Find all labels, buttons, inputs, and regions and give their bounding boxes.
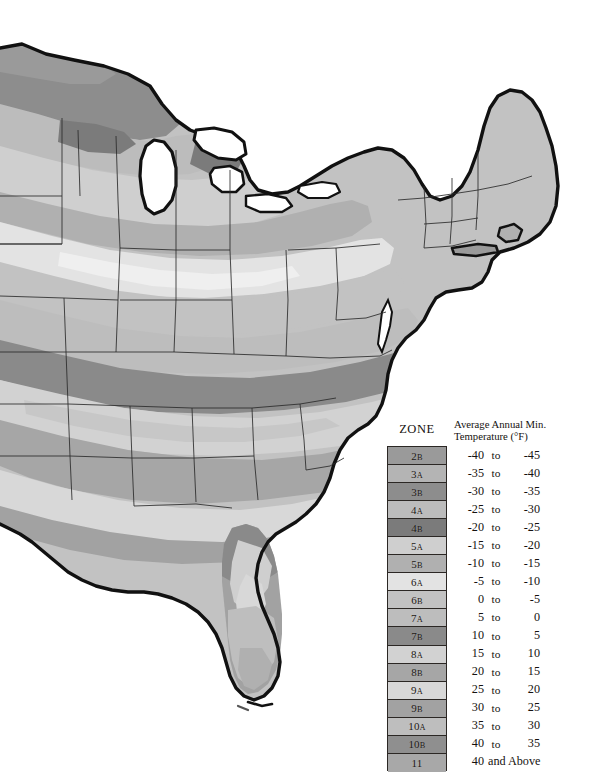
legend-temperature-row: 10to5: [454, 627, 594, 645]
legend-temp-qualifier: and Above: [484, 754, 540, 769]
legend-swatch-row: 11: [388, 754, 446, 772]
legend-temperature-row: -5to-10: [454, 572, 594, 590]
legend-temp-separator: to: [484, 521, 508, 533]
legend-temp-separator: to: [484, 539, 508, 551]
legend-temperature-row: -25to-30: [454, 500, 594, 518]
legend-temperature-row: 0to-5: [454, 590, 594, 608]
legend-swatch-row: 8B: [388, 664, 446, 682]
legend-temp-separator: to: [484, 720, 508, 732]
legend-swatch-row: 5A: [388, 537, 446, 555]
legend-zone-label: 5A: [411, 540, 423, 552]
legend-temp-low: 5: [454, 610, 484, 625]
legend-zone-label: 10A: [408, 720, 426, 732]
legend-zone-label: 3B: [411, 486, 422, 498]
legend-color-swatch: 8A: [388, 646, 446, 664]
legend-temperature-row: -20to-25: [454, 518, 594, 536]
legend-temp-low: 40: [454, 736, 484, 751]
legend-temp-separator: to: [484, 557, 508, 569]
legend-temp-low: 15: [454, 646, 484, 661]
legend-zone-label: 6A: [411, 576, 423, 588]
legend-temp-high: 30: [508, 718, 540, 733]
legend-zone-label: 9A: [411, 684, 423, 696]
legend-temp-high: 35: [508, 736, 540, 751]
legend-temperature-row: 30to25: [454, 699, 594, 717]
legend-color-swatch: 3B: [388, 483, 446, 501]
legend-temp-low: -25: [454, 502, 484, 517]
legend-temp-high: -10: [508, 574, 540, 589]
legend-temperature-header: Average Annual Min. Temperature (°F): [454, 419, 589, 442]
legend-temp-high: 15: [508, 664, 540, 679]
legend-temp-low: 30: [454, 700, 484, 715]
legend-color-swatch: 7B: [388, 627, 446, 645]
legend-swatch-row: 8A: [388, 646, 446, 664]
legend-swatch-row: 4B: [388, 519, 446, 537]
legend-color-swatch: 7A: [388, 609, 446, 627]
legend-color-swatch: 10B: [388, 736, 446, 754]
legend-swatch-column: 2B3A3B4A4B5A5B6A6B7A7B8A8B9A9B10A10B11: [387, 446, 447, 771]
legend-temp-low: -30: [454, 484, 484, 499]
legend-zone-label: 3A: [411, 468, 423, 480]
legend-color-swatch: 10A: [388, 718, 446, 736]
florida-keys: [238, 702, 272, 710]
legend-temperature-row: 5to0: [454, 608, 594, 626]
legend-temp-high: 5: [508, 628, 540, 643]
legend-color-swatch: 9A: [388, 682, 446, 700]
legend-temp-low: 25: [454, 682, 484, 697]
legend-temp-low: -5: [454, 574, 484, 589]
legend-header: ZONE Average Annual Min. Temperature (°F…: [387, 420, 592, 446]
legend-temp-high: 25: [508, 700, 540, 715]
legend-temp-separator: to: [484, 666, 508, 678]
legend-temp-high: -35: [508, 484, 540, 499]
legend-color-swatch: 3A: [388, 465, 446, 483]
legend-zone-label: 5B: [411, 558, 422, 570]
legend-body: 2B3A3B4A4B5A5B6A6B7A7B8A8B9A9B10A10B11 -…: [387, 446, 592, 771]
legend-temp-separator: to: [484, 593, 508, 605]
legend-temp-high: -25: [508, 520, 540, 535]
legend-zone-label: 4B: [411, 522, 422, 534]
legend-temp-high: -30: [508, 502, 540, 517]
legend-temperature-row: 20to15: [454, 663, 594, 681]
legend-color-swatch: 5B: [388, 555, 446, 573]
legend-swatch-row: 9B: [388, 700, 446, 718]
legend-temp-separator: to: [484, 702, 508, 714]
legend-swatch-row: 10B: [388, 736, 446, 754]
legend-zone-label: 7B: [411, 630, 422, 642]
legend-temp-low: -20: [454, 520, 484, 535]
legend-temperature-row: -10to-15: [454, 554, 594, 572]
legend-temperature-header-line2: Temperature (°F): [454, 430, 528, 442]
legend-temperature-header-line1: Average Annual Min.: [454, 418, 546, 430]
legend-temperature-row: 40and Above: [454, 753, 594, 771]
legend-zone-label: 4A: [411, 504, 423, 516]
legend-color-swatch: 4B: [388, 519, 446, 537]
legend-temp-low: 0: [454, 592, 484, 607]
legend-zone-label: 9B: [411, 702, 422, 714]
legend-swatch-row: 9A: [388, 682, 446, 700]
legend-temp-separator: to: [484, 738, 508, 750]
legend-color-swatch: 8B: [388, 664, 446, 682]
legend-zone-header: ZONE: [387, 422, 447, 437]
legend-swatch-row: 7A: [388, 609, 446, 627]
legend-temperature-row: 25to20: [454, 681, 594, 699]
legend-zone-label: 8B: [411, 666, 422, 678]
legend-zone-label: 10B: [408, 738, 425, 750]
legend-swatch-row: 10A: [388, 718, 446, 736]
legend-zone-label: 6B: [411, 594, 422, 606]
legend-temp-separator: to: [484, 648, 508, 660]
legend-temp-separator: to: [484, 503, 508, 515]
legend-temp-low: 40: [454, 754, 484, 769]
legend-temp-high: -45: [508, 448, 540, 463]
legend-temp-separator: to: [484, 630, 508, 642]
legend-temp-high: -20: [508, 538, 540, 553]
legend-temp-low: 35: [454, 718, 484, 733]
legend-temperature-row: 35to30: [454, 717, 594, 735]
legend-temp-separator: to: [484, 485, 508, 497]
legend-swatch-row: 2B: [388, 447, 446, 465]
legend-zone-label: 11: [412, 757, 423, 769]
legend-temperature-row: -30to-35: [454, 482, 594, 500]
legend-color-swatch: 5A: [388, 537, 446, 555]
legend-temp-low: 10: [454, 628, 484, 643]
legend-temp-high: 20: [508, 682, 540, 697]
legend-temp-separator: to: [484, 684, 508, 696]
legend-temperature-row: -40to-45: [454, 446, 594, 464]
legend-color-swatch: 6B: [388, 591, 446, 609]
